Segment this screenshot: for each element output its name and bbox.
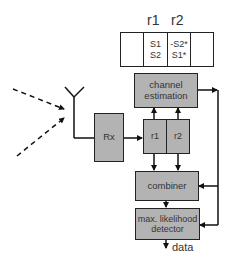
combiner-block: combiner [135, 171, 199, 201]
buffer-r2-label: r2 [174, 131, 182, 141]
header-label-r1: r1 [147, 13, 159, 27]
antenna-icon [65, 87, 94, 138]
combiner-label: combiner [147, 181, 186, 192]
rx-block: Rx [94, 113, 124, 162]
r1-text: r1 [147, 12, 159, 28]
symbol-neg-s2-conj: -S2* [170, 39, 188, 50]
data-output-label: data [172, 242, 193, 253]
buffer-r1-block: r1 [143, 119, 167, 154]
channel-estimation-block: channel estimation [134, 73, 198, 108]
code-cell-empty-left [120, 32, 144, 67]
code-cell-empty-right [190, 32, 214, 67]
buffer-r1-label: r1 [151, 131, 159, 141]
ml-detector-block: max. likelihood detector [135, 208, 200, 240]
symbol-s1-conj: S1* [172, 50, 187, 61]
dashed-arrow-icon [13, 89, 64, 156]
header-label-r2: r2 [171, 13, 183, 27]
ml-detector-label: max. likelihood detector [136, 214, 199, 235]
code-cell-slot1: S1 S2 [143, 32, 168, 67]
channel-estimation-label: channel estimation [141, 80, 191, 102]
code-cell-slot2: -S2* S1* [167, 32, 191, 67]
symbol-s1: S1 [150, 39, 161, 50]
r2-text: r2 [171, 12, 183, 28]
rx-label: Rx [103, 132, 115, 143]
symbol-s2: S2 [150, 50, 161, 61]
data-text: data [172, 241, 193, 253]
buffer-r2-block: r2 [166, 119, 190, 154]
